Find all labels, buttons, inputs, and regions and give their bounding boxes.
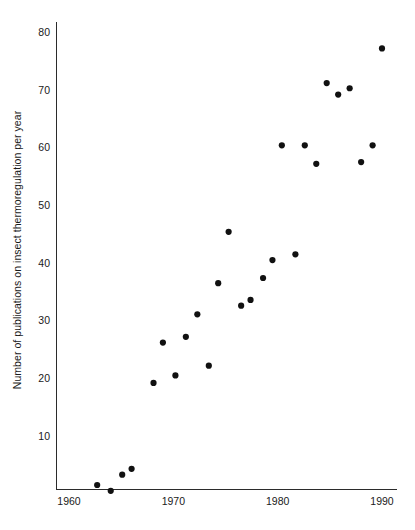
data-point xyxy=(226,229,232,235)
data-point xyxy=(269,257,275,263)
scatter-plot-figure: Number of publications on insect thermor… xyxy=(0,0,415,530)
x-tick-label: 1960 xyxy=(57,495,81,507)
data-point xyxy=(370,142,376,148)
data-point xyxy=(172,372,178,378)
y-tick-label: 60 xyxy=(38,141,50,153)
y-tick-label: 30 xyxy=(38,314,50,326)
data-points xyxy=(94,45,385,494)
data-point xyxy=(335,91,341,97)
axis-lines xyxy=(57,22,398,490)
data-point xyxy=(292,251,298,257)
y-axis-tick-labels: 1020304050607080 xyxy=(38,26,50,442)
data-point xyxy=(108,488,114,494)
data-point xyxy=(379,45,385,51)
x-axis-tick-labels: 1960197019801990 xyxy=(57,495,394,507)
y-tick-label: 40 xyxy=(38,257,50,269)
data-point xyxy=(247,297,253,303)
data-point xyxy=(260,275,266,281)
data-point xyxy=(215,280,221,286)
data-point xyxy=(129,466,135,472)
data-point xyxy=(150,380,156,386)
data-point xyxy=(206,363,212,369)
y-tick-label: 70 xyxy=(38,84,50,96)
x-tick-label: 1990 xyxy=(370,495,394,507)
data-point xyxy=(94,482,100,488)
data-point xyxy=(279,142,285,148)
data-point xyxy=(183,334,189,340)
x-tick-label: 1970 xyxy=(162,495,186,507)
plot-canvas: 1020304050607080 1960197019801990 xyxy=(0,0,415,530)
data-point xyxy=(119,472,125,478)
data-point xyxy=(358,159,364,165)
data-point xyxy=(313,161,319,167)
data-point xyxy=(238,303,244,309)
data-point xyxy=(302,142,308,148)
y-tick-label: 50 xyxy=(38,199,50,211)
y-tick-label: 10 xyxy=(38,430,50,442)
data-point xyxy=(324,80,330,86)
x-tick-label: 1980 xyxy=(266,495,290,507)
data-point xyxy=(194,311,200,317)
data-point xyxy=(347,85,353,91)
y-tick-label: 80 xyxy=(38,26,50,38)
data-point xyxy=(160,339,166,345)
y-tick-label: 20 xyxy=(38,372,50,384)
